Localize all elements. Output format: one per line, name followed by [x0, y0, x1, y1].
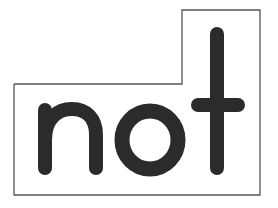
word-not: [45, 34, 238, 169]
letter-n: [45, 109, 96, 168]
not-sign: not: [0, 0, 278, 208]
letter-o: [122, 111, 178, 169]
letter-t: [198, 34, 238, 168]
